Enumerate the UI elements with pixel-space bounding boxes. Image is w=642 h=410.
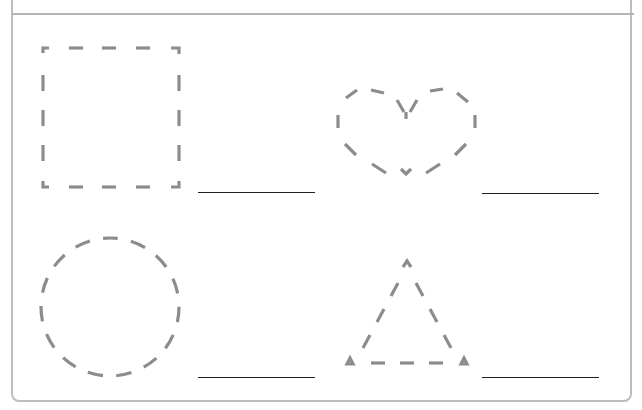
answer-line-circle[interactable] [198, 377, 315, 378]
answer-line-square[interactable] [198, 192, 315, 193]
tracing-shapes [0, 0, 642, 410]
dashed-heart-shape [338, 89, 475, 174]
answer-line-triangle[interactable] [482, 377, 599, 378]
dashed-triangle-shape [347, 261, 467, 364]
answer-line-heart[interactable] [482, 193, 599, 194]
dashed-square-shape [43, 48, 179, 187]
dashed-circle-shape [41, 238, 179, 376]
